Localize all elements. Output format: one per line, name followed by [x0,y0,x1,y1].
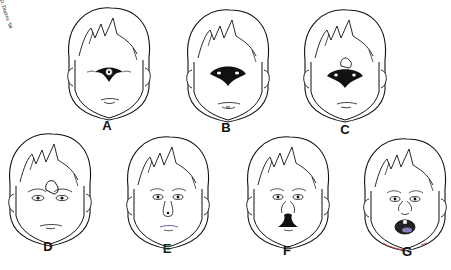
face-panel-b [187,10,270,122]
face-panel-e [127,137,210,249]
panel-label-g: G [397,244,417,259]
panel-label-e: E [157,241,177,256]
face-panel-f [247,137,330,249]
panel-label-d: D [38,239,58,254]
face-panel-a [68,8,151,120]
artist-signature: D. Duprez '94 [0,0,14,29]
face-panel-d [9,134,92,246]
face-panel-g [364,139,447,251]
face-panel-c [304,10,387,122]
panel-label-c: C [335,122,355,137]
panel-label-f: F [277,243,297,258]
panel-label-a: A [97,118,117,133]
panel-label-b: B [216,120,236,135]
faces-figure: D. Duprez '94 [0,0,451,270]
